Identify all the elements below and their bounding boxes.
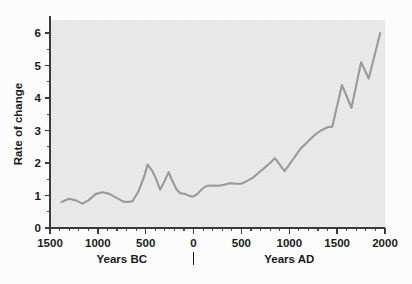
x-tick-label: 1000 (85, 237, 111, 249)
x-axis-label-ad: Years AD (264, 253, 314, 265)
x-tick-label: 500 (136, 237, 155, 249)
x-tick-label: 1500 (37, 237, 63, 249)
y-tick-label: 0 (35, 222, 41, 234)
x-tick-label: 1000 (276, 237, 302, 249)
x-axis-label-bc: Years BC (97, 253, 148, 265)
y-tick-label: 2 (35, 157, 41, 169)
x-tick-label: 0 (190, 237, 196, 249)
y-tick-label: 3 (35, 125, 41, 137)
y-tick-label: 1 (35, 190, 42, 202)
x-tick-label: 1500 (324, 237, 350, 249)
y-tick-label: 5 (35, 60, 42, 72)
y-axis-major-ticks (45, 33, 50, 228)
x-tick-label: 500 (232, 237, 251, 249)
y-axis-tick-labels: 0123456 (35, 27, 42, 234)
y-axis-title: Rate of change (12, 83, 24, 165)
x-axis-major-ticks (50, 228, 385, 234)
chart-canvas: 0123456 150010005000500100015002000 Rate… (0, 0, 412, 284)
chart-figure: 0123456 150010005000500100015002000 Rate… (0, 0, 412, 284)
y-tick-label: 4 (35, 92, 42, 104)
y-tick-label: 6 (35, 27, 41, 39)
plot-area-background (50, 20, 385, 228)
x-tick-label: 2000 (372, 237, 398, 249)
x-axis-tick-labels: 150010005000500100015002000 (37, 237, 398, 249)
